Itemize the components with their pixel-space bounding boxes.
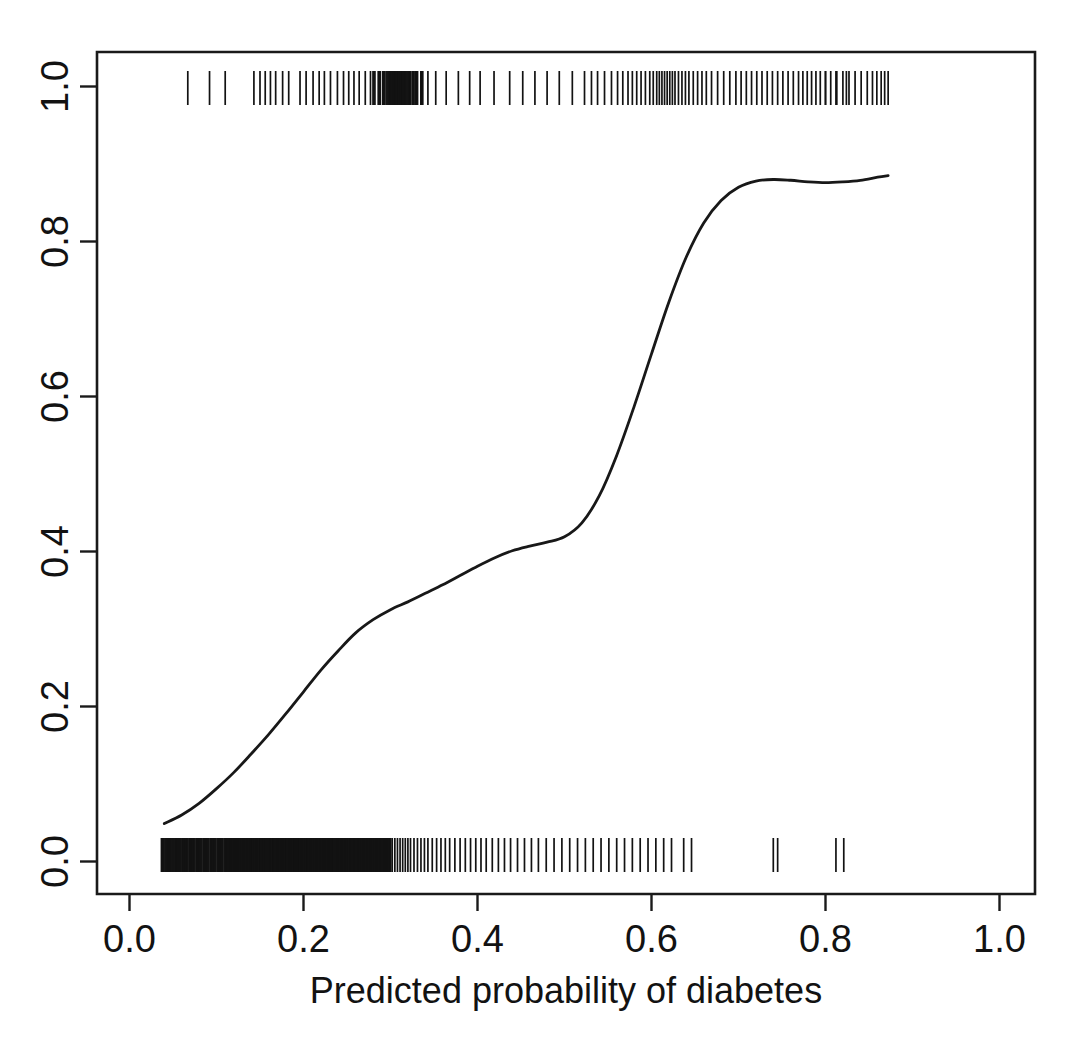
x-axis-title: Predicted probability of diabetes — [310, 970, 822, 1011]
y-axis-tick-labels: 0.00.20.40.60.81.0 — [34, 60, 76, 888]
x-tick-label-0.2: 0.2 — [277, 918, 330, 960]
figure-container: 0.00.20.40.60.81.0 0.00.20.40.60.81.0 Pr… — [0, 0, 1091, 1049]
y-tick-label-0.8: 0.8 — [34, 215, 76, 268]
lowess-smooth-curve — [164, 176, 888, 824]
y-tick-label-0.4: 0.4 — [34, 525, 76, 578]
x-tick-label-0.0: 0.0 — [103, 918, 156, 960]
calibration-plot: 0.00.20.40.60.81.0 0.00.20.40.60.81.0 Pr… — [0, 0, 1091, 1049]
y-tick-label-1.0: 1.0 — [34, 60, 76, 113]
y-tick-label-0.6: 0.6 — [34, 370, 76, 423]
y-tick-label-0.2: 0.2 — [34, 680, 76, 733]
rug-top-group — [188, 71, 888, 105]
y-tick-label-0.0: 0.0 — [34, 835, 76, 888]
x-axis-ticks — [130, 894, 1000, 911]
x-tick-label-0.8: 0.8 — [799, 918, 852, 960]
x-axis-tick-labels: 0.00.20.40.60.81.0 — [103, 918, 1026, 960]
x-tick-label-1.0: 1.0 — [973, 918, 1026, 960]
x-tick-label-0.4: 0.4 — [451, 918, 504, 960]
x-tick-label-0.6: 0.6 — [625, 918, 678, 960]
y-axis-ticks — [80, 87, 97, 862]
rug-bottom-group — [161, 838, 843, 872]
